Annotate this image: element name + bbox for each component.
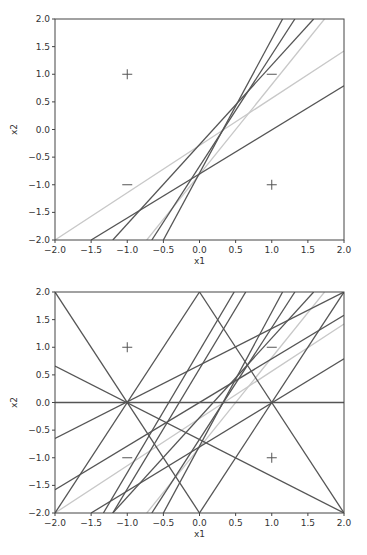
y-tick-label: −0.5 [28, 425, 50, 435]
y-tick-label: −2.0 [28, 508, 50, 518]
x-tick-label: 0.0 [192, 245, 207, 255]
x-tick-label: −1.5 [80, 518, 102, 528]
y-axis-label: x2 [9, 397, 19, 408]
line-c [91, 86, 344, 240]
x-tick-label: 0.5 [228, 245, 242, 255]
y-tick-label: 1.0 [36, 342, 51, 352]
x-tick-label: −2.0 [44, 245, 66, 255]
y-tick-label: 1.0 [36, 69, 51, 79]
series-group [55, 292, 344, 513]
y-tick-label: 1.5 [36, 42, 50, 52]
y-tick-label: 2.0 [36, 14, 51, 24]
y-axis-label: x2 [9, 124, 19, 135]
x-tick-label: 1.0 [265, 518, 280, 528]
line-d [113, 19, 314, 240]
plot-bottom: −2.0−1.5−1.0−0.50.00.51.01.52.0−2.0−1.5−… [9, 287, 351, 539]
line-f [163, 19, 282, 240]
x-tick-label: −0.5 [152, 518, 174, 528]
x-axis-label: x1 [194, 256, 205, 266]
line-l [55, 292, 344, 438]
plot-frame [55, 19, 344, 240]
y-tick-label: 1.5 [36, 315, 50, 325]
x-tick-label: 1.5 [301, 245, 315, 255]
y-tick-label: 2.0 [36, 287, 51, 297]
x-tick-label: −1.5 [80, 245, 102, 255]
chart-canvas: −2.0−1.5−1.0−0.50.00.51.01.52.0−2.0−1.5−… [0, 0, 367, 555]
y-tick-label: 0.5 [36, 97, 50, 107]
x-tick-label: −0.5 [152, 245, 174, 255]
plot-top: −2.0−1.5−1.0−0.50.00.51.01.52.0−2.0−1.5−… [9, 14, 351, 266]
x-tick-label: 1.0 [265, 245, 280, 255]
series-group [55, 19, 344, 240]
y-tick-label: −2.0 [28, 235, 50, 245]
y-tick-label: 0.0 [36, 125, 51, 135]
x-tick-label: 2.0 [337, 518, 352, 528]
x-tick-label: −1.0 [116, 518, 138, 528]
x-tick-label: 0.0 [192, 518, 207, 528]
x-tick-label: 1.5 [301, 518, 315, 528]
x-tick-label: 0.5 [228, 518, 242, 528]
y-tick-label: 0.5 [36, 370, 50, 380]
y-tick-label: 0.0 [36, 398, 51, 408]
y-tick-label: −0.5 [28, 152, 50, 162]
y-tick-label: −1.5 [28, 480, 50, 490]
x-tick-label: −2.0 [44, 518, 66, 528]
line-k [55, 366, 344, 513]
y-tick-label: −1.0 [28, 453, 50, 463]
y-tick-label: −1.5 [28, 207, 50, 217]
x-axis-label: x1 [194, 529, 205, 539]
x-tick-label: 2.0 [337, 245, 352, 255]
line-c [91, 359, 344, 513]
y-tick-label: −1.0 [28, 180, 50, 190]
x-tick-label: −1.0 [116, 245, 138, 255]
